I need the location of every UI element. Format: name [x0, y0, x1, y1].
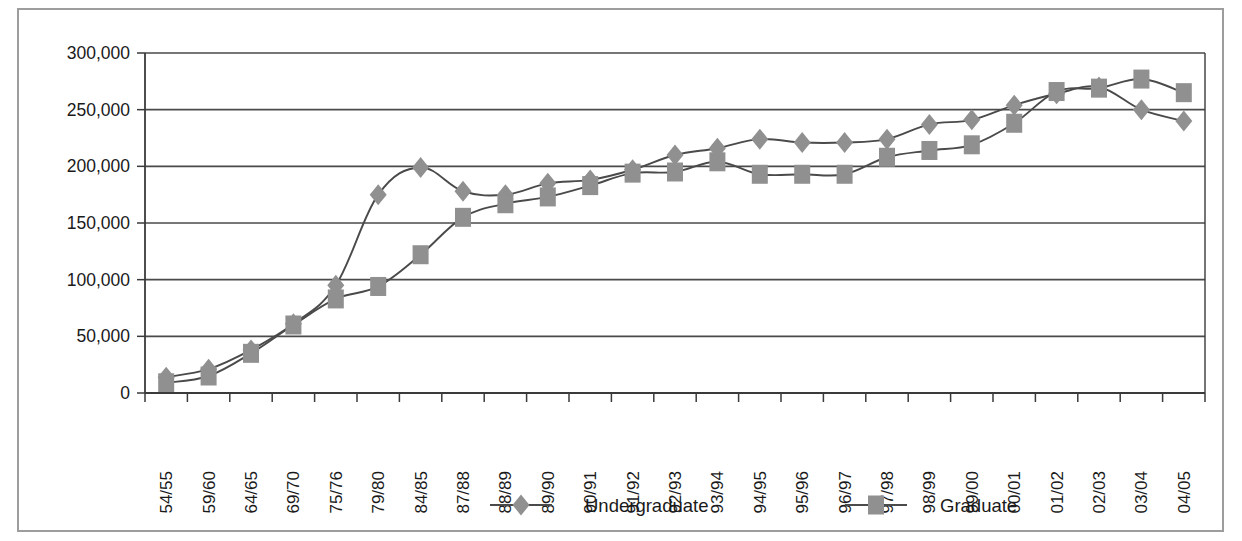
x-tick-label: 95/96 — [793, 471, 812, 514]
data-point-marker — [879, 148, 895, 167]
data-point-marker — [964, 135, 980, 154]
x-tick-label: 01/02 — [1048, 471, 1067, 514]
data-point-marker — [1006, 95, 1023, 116]
legend-item-undergraduate[interactable]: Undergraduate — [490, 495, 708, 517]
data-point-marker — [921, 141, 937, 160]
data-point-marker — [540, 187, 556, 206]
data-point-marker — [455, 208, 471, 227]
x-tick-label: 03/04 — [1132, 471, 1151, 514]
data-point-marker — [1006, 114, 1022, 133]
x-tick-label: 59/60 — [200, 471, 219, 514]
data-point-marker — [1175, 111, 1192, 132]
x-tick-label: 79/80 — [369, 471, 388, 514]
data-point-marker — [667, 145, 684, 166]
x-tick-label: 64/65 — [242, 471, 261, 514]
x-tick-label: 02/03 — [1090, 471, 1109, 514]
x-tick-label: 04/05 — [1175, 471, 1194, 514]
legend-label: Graduate — [940, 495, 1017, 516]
data-point-marker — [412, 157, 429, 178]
data-point-marker — [794, 165, 810, 184]
data-point-marker — [751, 129, 768, 150]
y-tick-label: 0 — [120, 383, 130, 403]
x-tick-label: 94/95 — [751, 471, 770, 514]
data-point-marker — [836, 132, 853, 153]
x-tick-label: 69/70 — [284, 471, 303, 514]
data-point-marker — [667, 163, 683, 182]
x-tick-label: 89/90 — [539, 471, 558, 514]
data-point-marker — [752, 165, 768, 184]
x-tick-label: 84/85 — [412, 471, 431, 514]
data-point-marker — [794, 132, 811, 153]
data-point-marker — [158, 373, 174, 392]
x-tick-label: 88/89 — [496, 471, 515, 514]
series-markers-undergraduate — [158, 77, 1193, 388]
data-point-marker — [243, 344, 259, 363]
data-point-marker — [455, 181, 472, 202]
data-point-marker — [328, 289, 344, 308]
data-point-marker — [963, 109, 980, 130]
gridlines — [145, 53, 1205, 393]
data-point-marker — [370, 277, 386, 296]
y-tick-label: 250,000 — [67, 100, 131, 120]
x-tick-label: 75/76 — [327, 471, 346, 514]
data-point-marker — [1133, 99, 1150, 120]
data-point-marker — [1176, 83, 1192, 102]
y-tick-label: 50,000 — [76, 326, 130, 346]
data-point-marker — [1049, 82, 1065, 101]
data-point-marker — [837, 165, 853, 184]
y-tick-label: 100,000 — [67, 270, 131, 290]
data-point-marker — [921, 114, 938, 135]
legend-label: Undergraduate — [585, 495, 708, 516]
legend-marker-square — [868, 496, 884, 515]
y-tick-label: 150,000 — [67, 213, 131, 233]
x-tick-label: 93/94 — [708, 471, 727, 514]
data-point-marker — [582, 176, 598, 195]
y-axis-tick-labels: 050,000100,000150,000200,000250,000300,0… — [67, 43, 131, 403]
series-line-graduate — [166, 79, 1184, 383]
series-line-undergraduate — [166, 86, 1184, 377]
x-tick-label: 87/88 — [454, 471, 473, 514]
x-tick-label: 96/97 — [836, 471, 855, 514]
x-tick-label: 54/55 — [157, 471, 176, 514]
data-series — [158, 70, 1193, 393]
data-point-marker — [1091, 79, 1107, 98]
data-point-marker — [709, 152, 725, 171]
x-tick-label: 98/99 — [920, 471, 939, 514]
data-point-marker — [285, 316, 301, 335]
data-point-marker — [1133, 70, 1149, 89]
data-point-marker — [879, 129, 896, 150]
y-tick-label: 200,000 — [67, 156, 131, 176]
data-point-marker — [413, 245, 429, 264]
data-point-marker — [201, 367, 217, 386]
data-point-marker — [625, 164, 641, 183]
line-chart: 050,000100,000150,000200,000250,000300,0… — [0, 0, 1242, 541]
axis-ticks — [137, 53, 1205, 402]
data-point-marker — [497, 194, 513, 213]
chart-figure: 050,000100,000150,000200,000250,000300,0… — [0, 0, 1242, 541]
y-tick-label: 300,000 — [67, 43, 131, 63]
series-markers-graduate — [158, 70, 1192, 393]
